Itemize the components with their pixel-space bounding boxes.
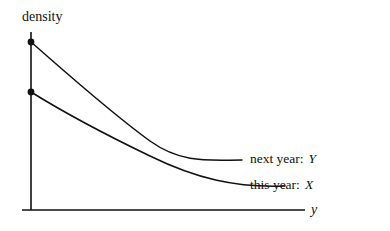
plot-canvas bbox=[0, 0, 390, 231]
x-axis-title: y bbox=[311, 203, 317, 217]
curve-label-next-year-text: next year: bbox=[250, 151, 304, 166]
curve-label-this-year-text: this year: bbox=[250, 177, 300, 192]
intercept-dot-next-year bbox=[28, 39, 35, 46]
curve-label-this-year-variable: X bbox=[300, 177, 313, 192]
curve-label-this-year: this year:X bbox=[250, 178, 313, 192]
y-axis-title: density bbox=[22, 10, 62, 24]
curve-label-next-year-variable: Y bbox=[304, 151, 317, 166]
density-figure: density next year:Y this year:X y bbox=[0, 0, 390, 231]
curve-label-next-year: next year:Y bbox=[250, 152, 316, 166]
curve-this-year bbox=[31, 92, 285, 186]
curve-next-year bbox=[31, 42, 242, 160]
intercept-dot-this-year bbox=[28, 89, 35, 96]
